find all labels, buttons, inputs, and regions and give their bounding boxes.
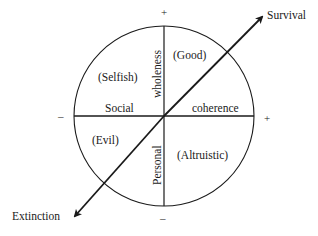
personal-label: Personal <box>151 145 163 185</box>
extinction-label: Extinction <box>12 210 60 222</box>
survival-label: Survival <box>267 9 306 21</box>
quadrant-selfish-label: (Selfish) <box>98 71 138 84</box>
quadrant-altruistic-label: (Altruistic) <box>177 149 228 162</box>
vertical-negative-sign: – <box>159 212 166 224</box>
quadrant-evil-label: (Evil) <box>92 134 119 147</box>
survival-diagram: + – – + Social coherence wholeness Perso… <box>0 0 318 236</box>
vertical-positive-sign: + <box>161 6 167 18</box>
social-label: Social <box>105 102 134 114</box>
horizontal-positive-sign: + <box>264 112 270 124</box>
quadrant-good-label: (Good) <box>173 49 206 62</box>
wholeness-label: wholeness <box>151 50 163 98</box>
coherence-label: coherence <box>192 102 239 114</box>
horizontal-negative-sign: – <box>57 110 64 122</box>
